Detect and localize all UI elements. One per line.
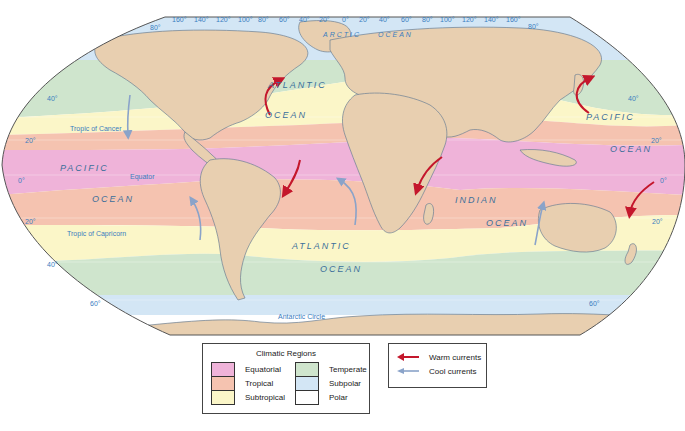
lon-label: 100° bbox=[440, 16, 454, 23]
equator-label: Equator bbox=[130, 173, 155, 180]
lon-label: 160° bbox=[506, 16, 520, 23]
legend-item-polar: Polar bbox=[295, 390, 367, 404]
lon-label: 120° bbox=[462, 16, 476, 23]
lon-label: 20° bbox=[319, 16, 330, 23]
north-atlantic-label: ATLANTIC bbox=[268, 80, 327, 90]
legend-title: Climatic Regions bbox=[203, 349, 369, 358]
legend-item-tropical: Tropical bbox=[211, 376, 295, 390]
lon-label: 60° bbox=[401, 16, 412, 23]
lon-label: 140° bbox=[194, 16, 208, 23]
lon-label: 0° bbox=[342, 16, 349, 23]
legend-item-temperate: Temperate bbox=[295, 362, 367, 376]
antarctic-circle-label: Antarctic Circle bbox=[278, 313, 325, 320]
lon-label: 40° bbox=[299, 16, 310, 23]
indian-ocean-label: OCEAN bbox=[486, 218, 528, 228]
legend-item-equatorial: Equatorial bbox=[211, 362, 295, 376]
lat-label: 40° bbox=[47, 261, 58, 268]
lon-label: 20° bbox=[359, 16, 370, 23]
lon-label: 60° bbox=[279, 16, 290, 23]
pacific-east-label: OCEAN bbox=[610, 144, 652, 154]
lat-label: 20° bbox=[25, 218, 36, 225]
tropic-of-cancer-label: Tropic of Cancer bbox=[70, 125, 121, 132]
cool-arrow-icon bbox=[397, 367, 419, 375]
pacific-east-label: PACIFIC bbox=[586, 112, 635, 122]
legend-warm-currents: Warm currents bbox=[389, 350, 486, 364]
lon-label: 120° bbox=[216, 16, 230, 23]
pacific-west-label: OCEAN bbox=[92, 194, 134, 204]
lon-label: 80° bbox=[258, 16, 269, 23]
lon-label: 100° bbox=[238, 16, 252, 23]
lat-label: 20° bbox=[25, 137, 36, 144]
currents-legend: Warm currents Cool currents bbox=[388, 343, 487, 388]
legend-item-subtropical: Subtropical bbox=[211, 390, 295, 404]
lon-label: 40° bbox=[379, 16, 390, 23]
north-atlantic-label: OCEAN bbox=[265, 110, 307, 120]
lon-label: 80° bbox=[528, 23, 539, 30]
lat-label: 0° bbox=[660, 177, 667, 184]
legend-item-subpolar: Subpolar bbox=[295, 376, 367, 390]
lon-label: 160° bbox=[172, 16, 186, 23]
arctic-ocean-label: ARCTIC bbox=[323, 31, 361, 38]
south-atlantic-label: ATLANTIC bbox=[292, 241, 351, 251]
lat-label: 60° bbox=[90, 300, 101, 307]
lat-label: 40° bbox=[47, 95, 58, 102]
lat-label: 40° bbox=[628, 95, 639, 102]
lon-label: 80° bbox=[422, 16, 433, 23]
warm-arrow-icon bbox=[397, 353, 419, 361]
climatic-regions-legend: Climatic Regions Equatorial Tropical Sub… bbox=[202, 343, 370, 414]
tropic-of-capricorn-label: Tropic of Capricorn bbox=[67, 230, 126, 237]
legend-cool-currents: Cool currents bbox=[389, 364, 486, 378]
lon-label: 140° bbox=[484, 16, 498, 23]
lat-label: 0° bbox=[18, 177, 25, 184]
lat-label: 20° bbox=[651, 137, 662, 144]
lat-label: 60° bbox=[589, 300, 600, 307]
indian-ocean-label: INDIAN bbox=[455, 195, 498, 205]
south-atlantic-label: OCEAN bbox=[320, 264, 362, 274]
pacific-west-label: PACIFIC bbox=[60, 163, 109, 173]
lon-label: 80° bbox=[150, 24, 161, 31]
arctic-ocean-label: OCEAN bbox=[378, 31, 413, 38]
lat-label: 20° bbox=[652, 218, 663, 225]
